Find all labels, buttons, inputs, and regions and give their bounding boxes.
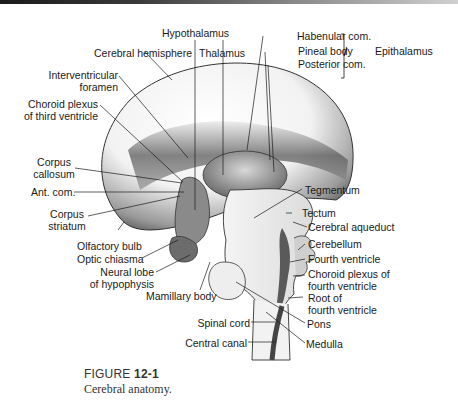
label-cerebral-aqueduct: Cerebral aqueduct xyxy=(308,221,394,233)
label-choroid-fourth-line2: fourth ventricle xyxy=(308,280,390,292)
label-corpus-callosum-line1: Corpus xyxy=(30,156,78,168)
label-olfactory-bulb: Olfactory bulb xyxy=(77,240,142,252)
label-interventricular-line2: foramen xyxy=(48,81,118,93)
label-medulla: Medulla xyxy=(306,338,343,350)
label-optic-chiasma: Optic chiasma xyxy=(77,253,144,265)
label-cerebral-hemisphere: Cerebral hemisphere xyxy=(94,47,192,59)
label-choroid-plexus-fourth: Choroid plexus of fourth ventricle xyxy=(308,268,390,292)
label-cerebellum: Cerebellum xyxy=(308,238,362,250)
figure-caption-text: Cerebral anatomy. xyxy=(84,382,172,397)
figure-number-prefix: FIGURE xyxy=(84,367,131,381)
label-root-fourth-ventricle: Root of fourth ventricle xyxy=(308,292,377,316)
label-corpus-striatum-line1: Corpus xyxy=(46,208,88,220)
label-pons: Pons xyxy=(307,318,331,330)
label-neural-lobe-hypophysis: Neural lobe of hypophysis xyxy=(88,266,154,290)
label-posterior-com: Posterior com. xyxy=(298,58,366,70)
figure-cerebral-anatomy: Hypothalamus Cerebral hemisphere Thalamu… xyxy=(0,0,458,411)
label-interventricular-line1: Interventricular xyxy=(48,69,118,81)
label-pineal-body: Pineal body xyxy=(298,45,353,57)
label-choroid-third-line1: Choroid plexus xyxy=(20,98,98,110)
figure-number: FIGURE 12-1 xyxy=(84,367,172,381)
label-habenular-com: Habenular com. xyxy=(297,30,371,42)
label-central-canal: Central canal xyxy=(150,337,247,349)
label-choroid-fourth-line1: Choroid plexus of xyxy=(308,268,390,280)
label-thalamus: Thalamus xyxy=(199,47,245,59)
label-spinal-cord: Spinal cord xyxy=(170,317,250,329)
figure-caption: FIGURE 12-1 Cerebral anatomy. xyxy=(84,367,172,397)
label-ant-com: Ant. com. xyxy=(31,186,75,198)
label-corpus-striatum-line2: striatum xyxy=(46,220,88,232)
label-corpus-callosum: Corpus callosum xyxy=(30,156,78,180)
label-corpus-striatum: Corpus striatum xyxy=(46,208,88,232)
label-tegmentum: Tegmentum xyxy=(305,184,360,196)
label-tectum: Tectum xyxy=(302,207,336,219)
label-mamillary-body: Mamillary body xyxy=(146,290,217,302)
label-choroid-third-line2: of third ventricle xyxy=(20,110,98,122)
label-corpus-callosum-line2: callosum xyxy=(30,168,78,180)
label-neural-lobe-line1: Neural lobe xyxy=(88,266,154,278)
figure-number-value: 12-1 xyxy=(134,367,159,381)
label-epithalamus: Epithalamus xyxy=(375,45,433,57)
label-fourth-ventricle: Fourth ventricle xyxy=(308,253,380,265)
label-hypothalamus: Hypothalamus xyxy=(162,27,229,39)
label-neural-lobe-line2: of hypophysis xyxy=(88,278,154,290)
label-choroid-plexus-third: Choroid plexus of third ventricle xyxy=(20,98,98,122)
label-interventricular-foramen: Interventricular foramen xyxy=(48,69,118,93)
brain-illustration xyxy=(0,0,458,411)
label-root-fourth-line2: fourth ventricle xyxy=(308,304,377,316)
label-root-fourth-line1: Root of xyxy=(308,292,377,304)
